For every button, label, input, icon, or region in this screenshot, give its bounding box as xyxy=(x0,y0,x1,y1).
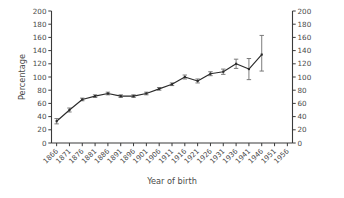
data-point-marker xyxy=(248,68,250,70)
y-axis-left: 020406080100120140160180200 xyxy=(33,7,52,148)
x-axis: 1866187118761881188618911896190119061911… xyxy=(42,143,293,166)
y-tick-label-left: 0 xyxy=(42,139,47,148)
data-point-marker xyxy=(184,76,186,78)
y-tick-label-right: 120 xyxy=(298,59,312,68)
y-axis-title: Percentage xyxy=(17,54,27,100)
y-tick-label-right: 20 xyxy=(298,125,308,134)
data-point-marker xyxy=(145,92,147,94)
data-point-marker xyxy=(235,63,237,65)
y-tick-label-right: 0 xyxy=(298,139,303,148)
y-tick-label-left: 140 xyxy=(33,46,47,55)
data-point-marker xyxy=(158,88,160,90)
y-tick-label-right: 100 xyxy=(298,73,312,82)
data-point-marker xyxy=(171,83,173,85)
data-point-marker xyxy=(209,73,211,75)
y-tick-label-left: 180 xyxy=(33,20,47,29)
y-axis-right: 020406080100120140160180200 xyxy=(293,7,312,148)
y-tick-label-left: 160 xyxy=(33,33,47,42)
data-point-marker xyxy=(107,92,109,94)
data-point-marker xyxy=(56,120,58,122)
data-point-marker xyxy=(94,95,96,97)
data-point-marker xyxy=(132,95,134,97)
x-tick-label: 1956 xyxy=(273,147,292,166)
y-tick-label-right: 160 xyxy=(298,33,312,42)
line-chart-plot: 020406080100120140160180200 020406080100… xyxy=(0,0,344,198)
data-point-marker xyxy=(120,95,122,97)
y-tick-label-left: 200 xyxy=(33,7,47,16)
y-tick-label-right: 40 xyxy=(298,112,308,121)
data-point-marker xyxy=(81,98,83,100)
y-tick-label-right: 200 xyxy=(298,7,312,16)
data-point-marker xyxy=(222,71,224,73)
chart-container: 020406080100120140160180200 020406080100… xyxy=(0,0,344,198)
data-point-marker xyxy=(197,80,199,82)
data-series-percentage xyxy=(54,35,264,123)
data-point-marker xyxy=(68,109,70,111)
y-tick-label-left: 40 xyxy=(37,112,47,121)
y-tick-label-left: 60 xyxy=(37,99,47,108)
y-tick-label-right: 180 xyxy=(298,20,312,29)
x-axis-title: Year of birth xyxy=(146,176,197,186)
y-tick-label-right: 60 xyxy=(298,99,308,108)
y-tick-label-left: 20 xyxy=(37,125,47,134)
y-tick-label-left: 120 xyxy=(33,59,47,68)
y-tick-label-right: 140 xyxy=(298,46,312,55)
y-tick-label-left: 100 xyxy=(33,73,47,82)
y-tick-label-left: 80 xyxy=(37,86,47,95)
data-point-marker xyxy=(261,54,263,56)
y-tick-label-right: 80 xyxy=(298,86,308,95)
